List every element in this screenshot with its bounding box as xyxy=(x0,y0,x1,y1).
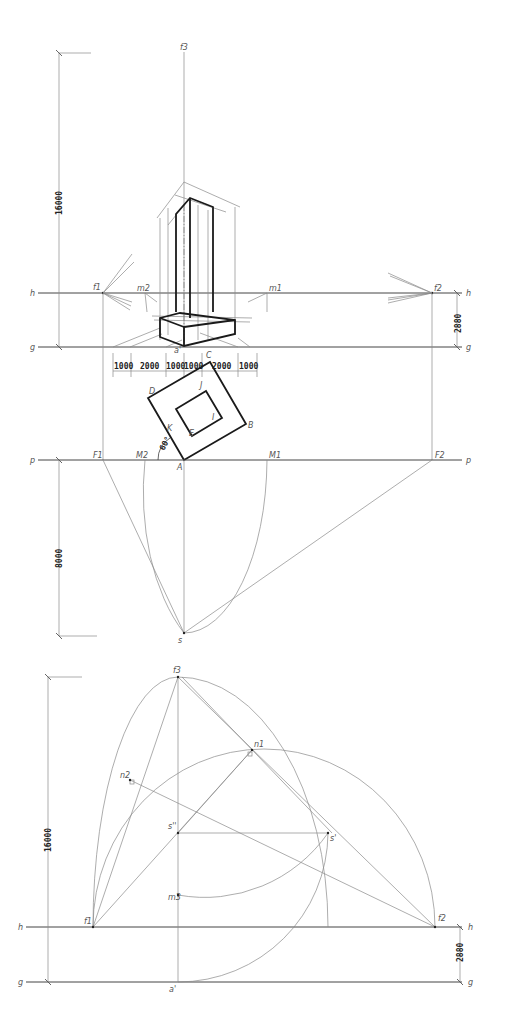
label-s-prime: s' xyxy=(330,834,336,843)
m1-ray xyxy=(248,293,267,302)
dimension-16000: 16000 xyxy=(55,191,64,215)
label-h-right: h xyxy=(466,289,471,298)
label-F1: F1 xyxy=(93,451,103,460)
label-h-left: h xyxy=(30,289,35,298)
top-perspective-diagram: h g h g f3 16000 2880 f1 m2 m1 f2 xyxy=(29,43,471,645)
label-f2-2: f2 xyxy=(438,914,446,923)
label-A: A xyxy=(176,463,182,472)
label-I: I xyxy=(212,413,215,422)
line-n2-f2 xyxy=(130,780,435,927)
label-n1: n1 xyxy=(254,740,264,749)
label-C: C xyxy=(206,351,212,360)
label-F2: F2 xyxy=(435,451,445,460)
label-f3: f3 xyxy=(180,43,188,52)
line-F2-s xyxy=(184,460,432,633)
line-f1-f3 xyxy=(93,677,178,927)
label-g-left: g xyxy=(30,343,35,352)
line-f2-f3 xyxy=(178,677,435,927)
label-a-prime: a' xyxy=(174,346,181,355)
label-f1-2: f1 xyxy=(84,917,92,926)
label-m2: m2 xyxy=(137,284,150,293)
line-f3-s-prime xyxy=(182,677,332,833)
label-f2: f2 xyxy=(434,284,442,293)
point-n1 xyxy=(251,749,253,751)
label-J: J xyxy=(198,381,203,390)
line-s-n1 xyxy=(178,750,252,833)
f1-ray-fan xyxy=(103,254,134,310)
base-dim-2: 2000 xyxy=(140,362,159,371)
label-f3-2: f3 xyxy=(173,666,181,675)
point-s-double xyxy=(177,832,179,834)
station-point-s xyxy=(183,632,185,634)
label-g-left-2: g xyxy=(18,978,23,987)
m2-ray xyxy=(145,293,147,312)
label-E: E xyxy=(189,429,195,438)
label-s-double: s'' xyxy=(168,822,177,831)
point-f3 xyxy=(177,676,179,678)
label-M1: M1 xyxy=(269,451,281,460)
label-g-right: g xyxy=(466,343,471,352)
dimension-2880: 2880 xyxy=(454,314,463,333)
label-p-left: p xyxy=(29,456,35,465)
base-dim-1: 1000 xyxy=(114,362,133,371)
label-B: B xyxy=(248,421,254,430)
point-f1 xyxy=(92,926,94,928)
point-s-prime xyxy=(327,832,329,834)
dimension-16000-2: 16000 xyxy=(44,828,53,852)
tower-outline xyxy=(160,198,235,346)
label-m3: m3 xyxy=(168,893,181,902)
base-dim-6: 1000 xyxy=(239,362,258,371)
plan-inner-square xyxy=(176,391,222,436)
dimension-2880-2: 2880 xyxy=(456,943,465,962)
point-f2 xyxy=(434,926,436,928)
label-g-right-2: g xyxy=(468,978,473,987)
m2-ray xyxy=(145,293,157,302)
label-m1: m1 xyxy=(269,284,282,293)
label-f1: f1 xyxy=(93,283,101,292)
arc-M1 xyxy=(184,460,267,633)
perspective-construction-drawing: h g h g f3 16000 2880 f1 m2 m1 f2 xyxy=(0,0,505,1028)
label-a-prime-2: a' xyxy=(169,985,176,994)
label-K: K xyxy=(167,424,173,433)
base-dim-3: 1000 xyxy=(166,362,185,371)
label-n2: n2 xyxy=(120,771,130,780)
label-p-right: p xyxy=(465,456,471,465)
label-h-left-2: h xyxy=(18,923,23,932)
arc-a-prime xyxy=(178,833,328,982)
label-s: s xyxy=(178,636,182,645)
bottom-construction-diagram: h g h g 16000 2880 xyxy=(18,666,473,994)
dimension-8000: 8000 xyxy=(55,549,64,568)
arc-m3 xyxy=(178,833,328,897)
f2-ray-fan xyxy=(388,273,432,303)
arc-M2 xyxy=(143,460,184,633)
label-D: D xyxy=(149,387,155,396)
label-h-right-2: h xyxy=(468,923,473,932)
label-M2: M2 xyxy=(136,451,148,460)
